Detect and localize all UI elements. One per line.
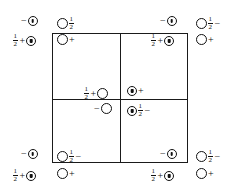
cell-divider-horizontal: [52, 99, 188, 100]
open-circle-icon: [57, 168, 68, 179]
atom-site-tr-outer-upper: 12−: [196, 16, 221, 31]
plus-sign: +: [157, 171, 165, 181]
atom-site-tr-outer-lower: +: [196, 34, 215, 45]
plus-sign: +: [207, 169, 215, 179]
atom-site-centre-right-lower: 12−: [127, 103, 151, 118]
one-half-fraction: 12: [68, 16, 75, 31]
atom-site-tl-inner-lower: +: [57, 34, 76, 45]
atom-site-bl-inner-upper: 12−: [57, 149, 82, 164]
plus-sign: +: [68, 35, 76, 45]
atom-site-br-outer-upper: 12−: [196, 149, 221, 164]
open-circle-icon: [196, 151, 207, 162]
minus-sign: −: [159, 16, 167, 26]
atom-site-br-outer-lower: +: [196, 168, 215, 179]
minus-sign: −: [214, 19, 222, 29]
plus-sign: +: [157, 36, 165, 46]
plus-sign: +: [19, 36, 27, 46]
atom-site-bl-outer-lower: 12+: [12, 168, 36, 183]
atom-site-centre-right-upper: +: [127, 86, 145, 96]
marked-circle-icon: [26, 171, 36, 181]
open-circle-icon: [101, 103, 112, 114]
open-circle-icon: [196, 34, 207, 45]
open-circle-icon: [196, 168, 207, 179]
atom-site-centre-left-upper: 12+: [83, 86, 108, 101]
open-circle-icon: [97, 88, 108, 99]
atom-site-bl-inner-lower: +: [57, 168, 76, 179]
marked-circle-icon: [28, 149, 38, 159]
unit-cell-figure: −12+12+−12+12−+12+−+12−−12+12−+−12+12−+: [0, 0, 237, 193]
marked-circle-icon: [164, 36, 174, 46]
plus-sign: +: [207, 35, 215, 45]
atom-site-tr-inner-upper: −: [159, 16, 177, 26]
marked-circle-icon: [28, 16, 38, 26]
minus-sign: −: [214, 152, 222, 162]
open-circle-icon: [57, 151, 68, 162]
cell-divider-vertical: [120, 33, 121, 163]
minus-sign: −: [93, 104, 101, 114]
atom-site-centre-left-lower: −: [93, 103, 112, 114]
minus-sign: −: [20, 16, 28, 26]
open-circle-icon: [196, 18, 207, 29]
plus-sign: +: [137, 86, 145, 96]
open-circle-icon: [57, 34, 68, 45]
atom-site-br-inner-lower: 12+: [150, 168, 174, 183]
atom-site-bl-outer-upper: −: [20, 149, 38, 159]
atom-site-tl-outer-upper: −: [20, 16, 38, 26]
atom-site-tr-inner-lower: 12+: [150, 33, 174, 48]
atom-site-br-inner-upper: −: [159, 149, 177, 159]
marked-circle-icon: [26, 36, 36, 46]
minus-sign: −: [144, 106, 152, 116]
atom-site-tl-inner-upper: 12: [57, 16, 75, 31]
marked-circle-icon: [127, 86, 137, 96]
minus-sign: −: [75, 152, 83, 162]
atom-site-tl-outer-lower: 12+: [12, 33, 36, 48]
marked-circle-icon: [167, 16, 177, 26]
plus-sign: +: [90, 89, 98, 99]
plus-sign: +: [19, 171, 27, 181]
marked-circle-icon: [127, 106, 137, 116]
open-circle-icon: [57, 18, 68, 29]
marked-circle-icon: [164, 171, 174, 181]
minus-sign: −: [20, 149, 28, 159]
plus-sign: +: [68, 169, 76, 179]
minus-sign: −: [159, 149, 167, 159]
marked-circle-icon: [167, 149, 177, 159]
